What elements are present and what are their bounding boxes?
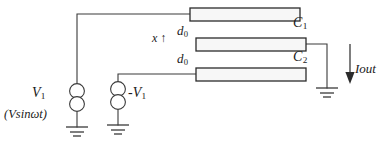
top-plate (190, 8, 300, 21)
up-arrow-icon: ↑ (160, 31, 166, 45)
iout-arrow (345, 44, 354, 84)
label-c2: C2 (293, 50, 307, 66)
label-iout: Iout (355, 62, 376, 75)
label-v1: V1 (32, 86, 45, 102)
ground-v1 (66, 127, 88, 136)
capacitor-plates (190, 8, 306, 81)
label-displacement-x: x ↑ (152, 32, 166, 44)
label-gap-bottom: d0 (177, 52, 188, 67)
source-v1 (70, 84, 85, 112)
source-v1-lower-circle (70, 97, 85, 112)
ground-neg-v1 (107, 125, 129, 134)
circuit-schematic-canvas (0, 0, 391, 146)
label-c1: C1 (293, 16, 307, 32)
ground-output (316, 88, 338, 97)
middle-plate (196, 38, 306, 51)
wire-middle-plate-to-ground (306, 44, 327, 88)
label-source-expression: (Vsinωt) (4, 108, 47, 121)
source-neg-v1-lower-circle (111, 95, 126, 110)
source-neg-v1 (111, 82, 126, 110)
wire-negv1-to-bottom-plate (118, 74, 196, 82)
label-neg-v1: -V1 (128, 86, 146, 102)
circuit-diagram: V1 (Vsinωt) -V1 x ↑ d0 d0 C1 C2 Iout (0, 0, 391, 146)
ground-symbols (66, 88, 338, 136)
bottom-plate (196, 68, 306, 81)
label-gap-top: d0 (177, 24, 188, 39)
